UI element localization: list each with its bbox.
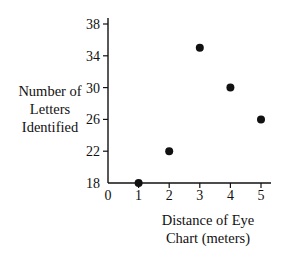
x-tick-label: 2 xyxy=(166,188,173,203)
x-tick-label: 4 xyxy=(227,188,234,203)
x-tick-label: 3 xyxy=(196,188,203,203)
x-axis-title-line: Chart (meters) xyxy=(138,229,278,247)
y-axis-title-line: Identified xyxy=(10,118,90,136)
x-axis-title-line: Distance of Eye xyxy=(138,211,278,229)
data-point xyxy=(165,147,173,155)
x-axis-title: Distance of Eye Chart (meters) xyxy=(138,211,278,247)
y-axis-title-line: Letters xyxy=(10,100,90,118)
y-tick-label: 38 xyxy=(86,17,100,32)
data-point xyxy=(257,115,265,123)
data-point xyxy=(226,84,234,92)
y-tick-label: 18 xyxy=(86,176,100,191)
y-tick-label: 22 xyxy=(86,144,100,159)
y-axis-title-line: Number of xyxy=(10,82,90,100)
data-point xyxy=(135,179,143,187)
x-tick-label: 0 xyxy=(105,188,112,203)
x-tick-label: 5 xyxy=(258,188,265,203)
data-point xyxy=(196,44,204,52)
y-tick-label: 34 xyxy=(86,49,100,64)
x-tick-label: 1 xyxy=(135,188,142,203)
y-axis-title: Number of Letters Identified xyxy=(10,82,90,136)
